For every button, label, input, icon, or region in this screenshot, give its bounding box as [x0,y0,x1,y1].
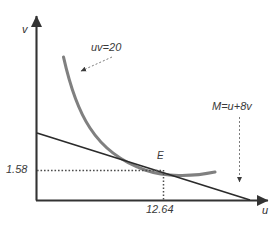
v-axis-label: v [22,24,28,35]
y-tick-label: 1.58 [6,164,27,175]
u-axis-label: u [262,205,268,216]
plot-graphics [0,0,279,226]
indifference-curve-label: uv=20 [91,42,121,53]
equilibrium-point-label: E [157,151,164,161]
curve-label-arrow [81,57,112,71]
budget-line-label: M=u+8v [212,101,252,112]
diagram-canvas: v u uv=20 M=u+8v E 1.58 12.64 [0,0,279,226]
budget-line [37,133,250,200]
x-tick-label: 12.64 [146,204,174,215]
indifference-curve [64,57,216,176]
